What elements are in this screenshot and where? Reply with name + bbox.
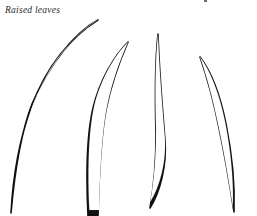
illustration-page: Raised leaves xyxy=(0,0,257,216)
cropped-text-remnant xyxy=(204,0,207,2)
figure-caption: Raised leaves xyxy=(5,4,60,16)
raised-leaves-drawing xyxy=(0,0,257,216)
